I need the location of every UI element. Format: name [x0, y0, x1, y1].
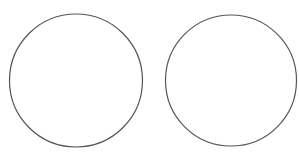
left-circle: [10, 14, 143, 147]
right-circle: [166, 15, 297, 146]
diagram-canvas: [0, 0, 299, 161]
